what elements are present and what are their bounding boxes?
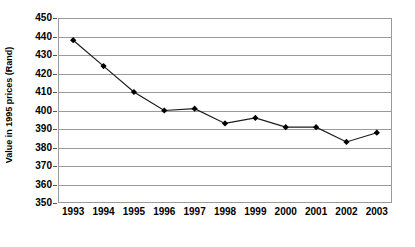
y-axis-tick-mark	[53, 37, 57, 38]
x-axis-tick-label: 1997	[184, 206, 206, 218]
gridline	[59, 92, 391, 93]
y-axis-tick-mark	[53, 185, 57, 186]
gridline	[59, 129, 391, 130]
line-chart: Value in 1995 prices (Rand) 350360370380…	[0, 0, 415, 247]
gridline	[59, 37, 391, 38]
x-axis-tick-label: 1995	[123, 206, 145, 218]
y-axis-tick-mark	[53, 111, 57, 112]
y-axis-tick-mark	[53, 18, 57, 19]
gridline	[59, 148, 391, 149]
x-axis-tick-label: 2000	[275, 206, 297, 218]
gridline	[59, 55, 391, 56]
x-axis-tick-label: 1993	[62, 206, 84, 218]
y-axis-tick-mark	[53, 203, 57, 204]
x-axis-tick-label: 2002	[335, 206, 357, 218]
x-axis-tick-label: 2001	[305, 206, 327, 218]
y-axis-tick-mark	[53, 129, 57, 130]
gridline	[59, 74, 391, 75]
y-axis-tick-mark	[53, 55, 57, 56]
x-axis-tick-label: 1998	[214, 206, 236, 218]
y-axis-tick-marks	[0, 18, 58, 203]
gridline	[59, 185, 391, 186]
y-axis-tick-mark	[53, 148, 57, 149]
y-axis-tick-mark	[53, 74, 57, 75]
gridline	[59, 166, 391, 167]
x-axis-tick-labels: 1993199419951996199719981999200020012002…	[58, 206, 392, 226]
x-axis-tick-label: 1999	[244, 206, 266, 218]
y-axis-tick-mark	[53, 166, 57, 167]
x-axis-tick-label: 2003	[366, 206, 388, 218]
plot-area	[58, 18, 392, 203]
gridline	[59, 111, 391, 112]
x-axis-tick-label: 1994	[92, 206, 114, 218]
y-axis-tick-mark	[53, 92, 57, 93]
x-axis-tick-label: 1996	[153, 206, 175, 218]
